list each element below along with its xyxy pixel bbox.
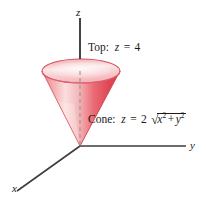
- cone-prefix: Cone:: [88, 113, 115, 125]
- radicand: x2+y2: [157, 113, 185, 126]
- top-plane-equals: =: [124, 41, 131, 53]
- top-plane-variable: z: [115, 41, 119, 53]
- axis-label-y: y: [190, 140, 195, 151]
- top-plane-prefix: Top:: [88, 41, 109, 53]
- x-axis-line: [17, 146, 80, 191]
- axis-label-z: z: [76, 7, 80, 18]
- cone-equals: =: [130, 113, 137, 125]
- axis-label-x: x: [12, 183, 17, 194]
- cone-variable: z: [121, 113, 125, 125]
- cone-top-ellipse-glow: [51, 62, 111, 78]
- radicand-exp-x: 2: [162, 111, 166, 120]
- top-plane-value: 4: [135, 41, 141, 53]
- cone-diagram: z y x Top: z = 4 Cone: z = 2 √x2+y2: [0, 0, 206, 202]
- radicand-exp-y: 2: [181, 111, 185, 120]
- cone-solid: [42, 59, 120, 146]
- cone-equation-annotation: Cone: z = 2 √x2+y2: [88, 113, 186, 126]
- diagram-canvas: [0, 0, 206, 202]
- top-plane-annotation: Top: z = 4: [88, 42, 140, 54]
- cone-coefficient: 2: [141, 113, 147, 125]
- cone-radical: √x2+y2: [151, 113, 185, 126]
- radicand-plus: +: [168, 113, 175, 125]
